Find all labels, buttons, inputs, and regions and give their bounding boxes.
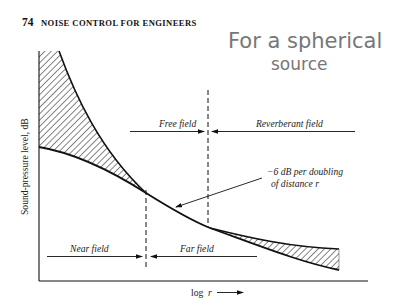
figure-canvas: 74 NOISE CONTROL FOR ENGINEERS For a sph… [0,0,415,307]
slope-annotation-line-2: of distance r [271,178,319,189]
x-axis-label-log: log [191,287,203,298]
page-header: 74 NOISE CONTROL FOR ENGINEERS [22,16,197,28]
y-axis-label: Sound-pressure level, dB [19,118,30,215]
x-axis-label-var: r [208,287,212,298]
far-field-label: Far field [179,243,214,254]
slope-leader-arrow [176,178,262,207]
handwritten-line-2: source [271,54,327,74]
near-field-label: Near field [69,243,109,254]
reverberant-field-label: Reverberant field [255,118,323,129]
running-title: NOISE CONTROL FOR ENGINEERS [41,18,197,28]
x-axis-label: log r [191,287,243,298]
page-number: 74 [22,16,34,28]
near-field-hatched-region [39,51,146,193]
handwritten-line-1: For a spherical [228,29,382,53]
free-field-label: Free field [158,118,196,129]
handwritten-note: For a spherical source [228,29,382,74]
slope-annotation-line-1: −6 dB per doubling [267,166,343,177]
